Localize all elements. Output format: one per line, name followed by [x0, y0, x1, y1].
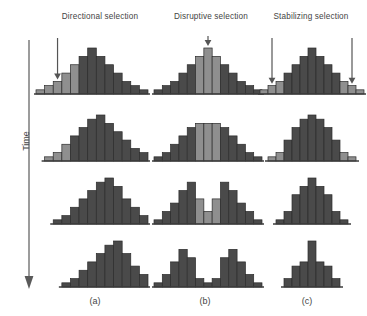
histogram-c-t4	[258, 229, 366, 291]
histogram-b-t3	[152, 166, 264, 228]
time-axis-label: Time	[21, 119, 31, 163]
selection-types-figure: Directional selection Disruptive selecti…	[0, 0, 367, 316]
histogram-c-t2	[258, 103, 366, 165]
column-title-disruptive: Disruptive selection	[156, 12, 266, 21]
histogram-b-t1	[152, 36, 264, 98]
histogram-a-t3	[34, 166, 150, 228]
histogram-c-t3	[258, 166, 366, 228]
panel-label-c: (c)	[272, 296, 342, 306]
histogram-a-t4	[34, 229, 150, 291]
histogram-b-t4	[152, 229, 264, 291]
histogram-b-t2	[152, 103, 264, 165]
panel-label-b: (b)	[170, 296, 240, 306]
histogram-a-t1	[34, 36, 150, 98]
histogram-c-t1	[258, 36, 366, 98]
column-title-stabilizing: Stabilizing selection	[258, 12, 364, 21]
panel-label-a: (a)	[60, 296, 130, 306]
histogram-a-t2	[34, 103, 150, 165]
column-title-directional: Directional selection	[40, 12, 160, 21]
